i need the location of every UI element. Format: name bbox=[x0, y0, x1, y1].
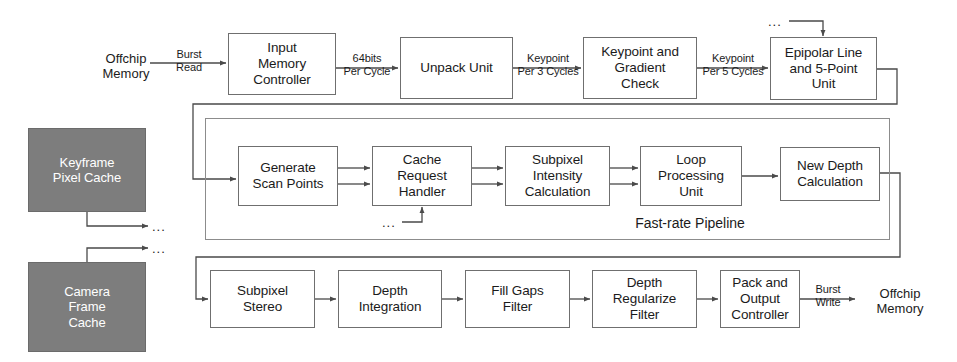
edge-label-keypoint-per-3-cycles: Keypoint Per 3 Cycles bbox=[512, 52, 584, 78]
block-unpack-unit[interactable]: Unpack Unit bbox=[400, 37, 513, 99]
offchip-memory-input-label: Offchip Memory bbox=[88, 51, 164, 82]
block-camera-frame-cache[interactable]: Camera Frame Cache bbox=[28, 262, 146, 352]
block-generate-scan-points[interactable]: Generate Scan Points bbox=[238, 146, 338, 206]
offchip-memory-output-label: Offchip Memory bbox=[860, 286, 940, 317]
wire-camera-cache-out bbox=[87, 248, 148, 262]
block-diagram: Fast-rate Pipeline Offchip Memory Offchi… bbox=[0, 0, 957, 362]
block-new-depth-calculation[interactable]: New Depth Calculation bbox=[780, 147, 880, 201]
block-pack-and-output-controller[interactable]: Pack and Output Controller bbox=[720, 270, 800, 328]
edge-label-burst-write: Burst Write bbox=[802, 283, 854, 309]
ellipsis-cache-request-in-icon: ... bbox=[382, 216, 396, 229]
wire-keyframe-cache-out bbox=[87, 212, 148, 226]
ellipsis-camera-out-icon: ... bbox=[152, 242, 166, 255]
ellipsis-epipolar-in-icon: ... bbox=[768, 15, 782, 28]
block-input-memory-controller[interactable]: Input Memory Controller bbox=[228, 33, 336, 95]
block-keypoint-and-gradient-check[interactable]: Keypoint and Gradient Check bbox=[583, 37, 697, 99]
block-epipolar-line-and-5-point-unit[interactable]: Epipolar Line and 5-Point Unit bbox=[770, 37, 877, 100]
block-fill-gaps-filter[interactable]: Fill Gaps Filter bbox=[465, 270, 570, 328]
block-depth-regularize-filter[interactable]: Depth Regularize Filter bbox=[592, 270, 697, 328]
wire-ellipsis-to-epipolar-top bbox=[789, 21, 823, 36]
edge-label-burst-read: Burst Read bbox=[160, 48, 218, 74]
edge-label-keypoint-per-5-cycles: Keypoint Per 5 Cycles bbox=[696, 52, 770, 78]
block-subpixel-intensity-calculation[interactable]: Subpixel Intensity Calculation bbox=[505, 146, 610, 206]
block-cache-request-handler[interactable]: Cache Request Handler bbox=[372, 146, 472, 206]
block-loop-processing-unit[interactable]: Loop Processing Unit bbox=[640, 146, 742, 206]
block-keyframe-pixel-cache[interactable]: Keyframe Pixel Cache bbox=[28, 128, 146, 212]
block-subpixel-stereo[interactable]: Subpixel Stereo bbox=[210, 270, 315, 328]
edge-label-64bits-per-cycle: 64bits Per Cycle bbox=[334, 52, 400, 78]
fast-rate-pipeline-label: Fast-rate Pipeline bbox=[600, 215, 780, 232]
ellipsis-keyframe-out-icon: ... bbox=[152, 220, 166, 233]
block-depth-integration[interactable]: Depth Integration bbox=[338, 270, 442, 328]
